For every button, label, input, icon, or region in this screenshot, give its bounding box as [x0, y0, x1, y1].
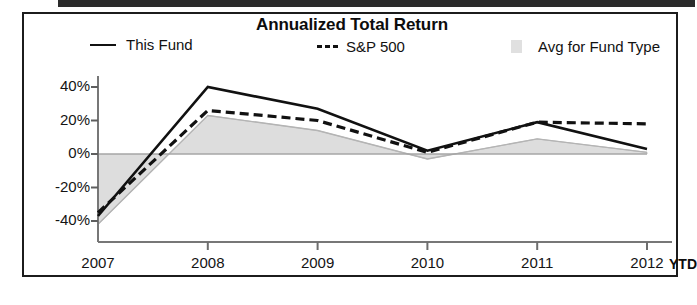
scan-artifact-bottom-shadow: [0, 288, 695, 305]
x-axis-tick-label: 2010: [392, 254, 462, 271]
y-axis-tick-label: -20%: [32, 178, 90, 195]
x-axis-tick-label: 2008: [173, 254, 243, 271]
chart-frame: Annualized Total Return This Fund S&P 50…: [22, 12, 678, 277]
x-axis-tick-label: 2011: [502, 254, 572, 271]
series-line-s-p-500: [98, 110, 647, 212]
plot-area: [24, 14, 680, 279]
series-line-avg-for-fund-type: [98, 115, 647, 224]
plot-svg: [24, 14, 680, 279]
x-axis-tick-label: 2009: [283, 254, 353, 271]
y-axis-tick-label: 0%: [32, 144, 90, 161]
scan-artifact-top-bar-fade: [0, 0, 58, 7]
y-axis-tick-label: 40%: [32, 77, 90, 94]
x-axis-unit-label: YTD: [669, 256, 697, 272]
scan-artifact-top-bar: [55, 0, 695, 7]
y-axis-tick-label: -40%: [32, 211, 90, 228]
x-axis-tick-label: 2007: [63, 254, 133, 271]
y-axis-tick-label: 20%: [32, 111, 90, 128]
series-area-avg-for-fund-type: [98, 115, 647, 224]
